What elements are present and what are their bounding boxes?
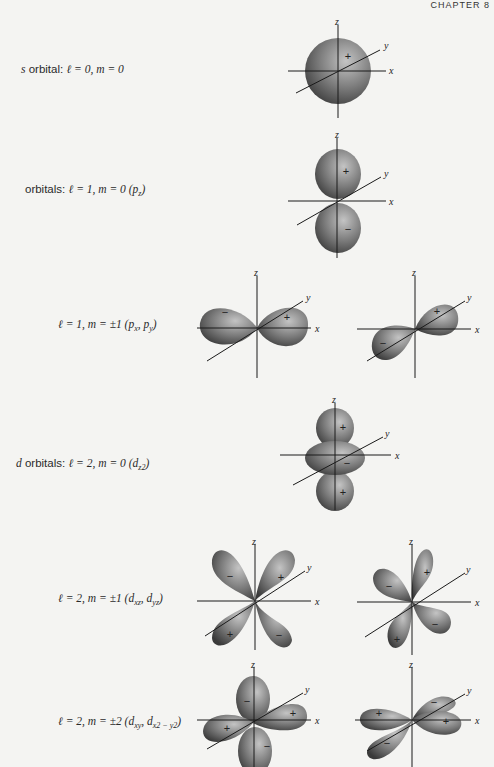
plus-sign: + <box>340 486 346 498</box>
plus-sign: + <box>227 628 233 640</box>
z-axis-label: z <box>408 659 413 670</box>
plus-sign: + <box>394 633 400 645</box>
x-axis-label: x <box>314 715 320 726</box>
plus-sign: + <box>424 566 430 578</box>
minus-sign: − <box>244 695 250 707</box>
dyz-lobe-1 <box>373 569 412 602</box>
minus-sign: − <box>384 737 390 749</box>
dz2-orbital-diagram: z y x + − + <box>275 395 405 510</box>
z-axis-label: z <box>408 536 413 547</box>
y-axis-label: y <box>306 562 312 573</box>
label-px-py-orbital: ℓ = 1, m = ±1 (px, py) <box>58 318 157 333</box>
minus-sign: − <box>276 629 282 641</box>
x-axis-label: x <box>474 597 480 608</box>
minus-sign: − <box>222 306 228 318</box>
label-pz-orbital: orbitals: ℓ = 1, m = 0 (pz) <box>25 183 145 198</box>
x-axis-label: x <box>314 323 320 334</box>
label-dz2-orbital: d orbitals: ℓ = 2, m = 0 (dz2) <box>16 457 149 472</box>
x-axis-label: x <box>474 715 480 726</box>
y-axis-label: y <box>305 292 311 303</box>
z-axis-label: z <box>334 16 339 27</box>
minus-sign: − <box>227 570 233 582</box>
z-axis-label: z <box>331 394 336 405</box>
dxz-lobe-4 <box>255 601 292 647</box>
y-axis-label: y <box>466 685 472 696</box>
plus-sign: + <box>443 715 449 727</box>
z-axis-label: z <box>253 267 258 278</box>
minus-sign: − <box>264 740 270 752</box>
z-axis-label: z <box>334 129 339 140</box>
y-axis-label: y <box>383 168 389 179</box>
dxz-lobe-2 <box>255 550 295 601</box>
dxz-orbital-diagram: z y x − + + − <box>195 540 325 650</box>
minus-sign: − <box>345 223 351 235</box>
x-axis-label: x <box>314 596 320 607</box>
plus-sign: + <box>284 311 290 323</box>
plus-sign: + <box>345 50 351 62</box>
plus-sign: + <box>343 165 349 177</box>
y-axis-label: y <box>384 428 390 439</box>
y-axis-label: y <box>466 292 472 303</box>
z-axis-label: z <box>250 659 255 670</box>
plus-sign: + <box>376 707 382 719</box>
x-axis-label: x <box>394 450 400 461</box>
z-axis-label: z <box>251 536 256 547</box>
plus-sign: + <box>278 571 284 583</box>
plus-sign: + <box>340 421 346 433</box>
minus-sign: − <box>432 618 438 630</box>
minus-sign: − <box>344 457 350 469</box>
y-axis-label: y <box>383 40 389 51</box>
z-axis-label: z <box>411 267 416 278</box>
minus-sign: − <box>386 580 392 592</box>
chapter-header: CHAPTER 8 <box>430 0 490 10</box>
py-orbital-diagram: z y x + − <box>355 268 485 378</box>
px-orbital-diagram: z y x − + <box>195 268 325 378</box>
plus-sign: + <box>434 305 440 317</box>
s-orbital-diagram: z y x + <box>280 15 400 125</box>
x-axis-label: x <box>388 196 394 207</box>
minus-sign: − <box>380 337 386 349</box>
label-s-orbital: s orbital: ℓ = 0, m = 0 <box>21 63 124 75</box>
minus-sign: − <box>431 696 437 708</box>
dx2y2-orbital-diagram: z y x + − + − <box>355 663 485 767</box>
py-lower-lobe <box>372 326 415 361</box>
pz-orbital-diagram: z y x + − <box>280 130 400 260</box>
y-axis-label: y <box>304 684 310 695</box>
px-left-lobe <box>200 308 257 344</box>
x-axis-label: x <box>388 65 394 76</box>
dxy-orbital-diagram: z y x − + + − <box>195 663 325 767</box>
pz-upper-lobe <box>315 149 361 199</box>
x-axis-label: x <box>474 324 480 335</box>
label-dxz-dyz-orbital: ℓ = 2, m = ±1 (dxz, dyz) <box>58 592 163 607</box>
dxz-lobe-1 <box>212 550 255 601</box>
dyz-orbital-diagram: z y x − + + − <box>355 540 485 655</box>
y-axis-label: y <box>465 564 471 575</box>
label-dxy-dx2y2-orbital: ℓ = 2, m = ±2 (dxy, dx2 − y2) <box>58 715 181 730</box>
plus-sign: + <box>224 722 230 734</box>
plus-sign: + <box>290 707 296 719</box>
